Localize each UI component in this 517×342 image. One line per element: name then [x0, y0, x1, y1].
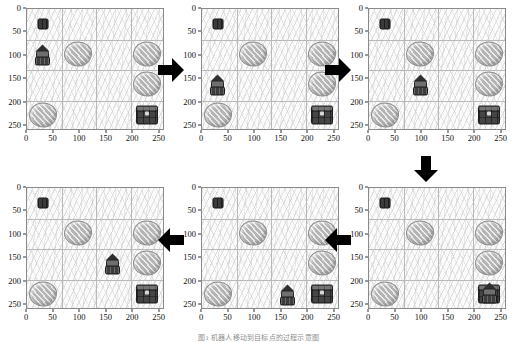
gridline-horizontal	[369, 70, 505, 71]
plot-area	[201, 8, 339, 130]
y-tick-label: 100	[350, 229, 363, 239]
y-tick-label: 150	[8, 252, 21, 262]
robot-agent-icon	[413, 75, 428, 94]
x-tick-label: 200	[301, 312, 314, 322]
x-tick-label: 150	[441, 133, 454, 143]
gridline-vertical	[96, 188, 97, 308]
gridline-vertical	[306, 188, 307, 308]
y-tick-label: 0	[17, 3, 21, 13]
x-tick-label: 50	[390, 133, 399, 143]
plot-area	[368, 8, 506, 130]
chest-goal-icon	[136, 284, 158, 303]
x-tick-label: 200	[468, 133, 481, 143]
rock-obstacle-icon	[371, 281, 399, 306]
panel-step-4: 050100150200250050100150200250	[0, 177, 175, 342]
gridline-vertical	[473, 9, 474, 129]
robot-agent-icon	[280, 284, 295, 303]
plot-area	[368, 187, 506, 309]
y-tick-label: 150	[350, 252, 363, 262]
arrow-panel1-to-panel2	[158, 58, 184, 82]
gridline-horizontal	[369, 219, 505, 220]
x-axis-ticks: 050100150200250	[368, 130, 506, 146]
panel-step-5: 050100150200250050100150200250	[175, 177, 350, 342]
x-tick-label: 0	[24, 312, 28, 322]
gridline-horizontal	[202, 101, 338, 102]
y-axis-ticks: 050100150200250	[0, 8, 26, 130]
y-tick-label: 100	[8, 50, 21, 60]
rock-obstacle-icon	[475, 220, 503, 245]
agent-body	[35, 56, 50, 65]
rock-obstacle-icon	[64, 41, 92, 66]
x-tick-label: 0	[366, 312, 370, 322]
gridline-horizontal	[27, 219, 163, 220]
gridline-vertical	[62, 9, 63, 129]
y-tick-label: 150	[350, 73, 363, 83]
y-tick-label: 200	[8, 276, 21, 286]
x-tick-label: 200	[468, 312, 481, 322]
y-tick-label: 0	[359, 182, 363, 192]
rock-obstacle-icon	[475, 41, 503, 66]
panel-step-1: 050100150200250050100150200250	[0, 0, 175, 160]
y-tick-label: 0	[359, 3, 363, 13]
x-tick-label: 200	[126, 133, 139, 143]
x-axis-ticks: 050100150200250	[368, 309, 506, 325]
y-axis-ticks: 050100150200250	[0, 187, 26, 309]
x-tick-label: 50	[390, 312, 399, 322]
small-chest-icon	[379, 19, 390, 30]
x-tick-label: 100	[73, 312, 86, 322]
gridline-vertical	[62, 188, 63, 308]
x-axis-ticks: 050100150200250	[201, 130, 339, 146]
y-tick-label: 0	[17, 182, 21, 192]
panel-step-3: 050100150200250050100150200250	[342, 0, 517, 160]
arrow-panel5-to-panel6	[158, 228, 184, 252]
gridline-horizontal	[27, 280, 163, 281]
arrow-panel2-to-panel3	[325, 58, 351, 82]
y-tick-label: 0	[192, 182, 196, 192]
arrow-panel3-to-panel4	[414, 156, 438, 182]
rock-obstacle-icon	[475, 72, 503, 97]
y-tick-label: 250	[350, 120, 363, 130]
x-tick-label: 100	[415, 312, 428, 322]
x-tick-label: 150	[274, 312, 287, 322]
gridline-horizontal	[369, 40, 505, 41]
gridline-vertical	[271, 188, 272, 308]
gridline-vertical	[438, 9, 439, 129]
small-chest-icon	[212, 19, 223, 30]
x-tick-label: 0	[199, 312, 203, 322]
gridline-vertical	[404, 188, 405, 308]
gridline-horizontal	[202, 219, 338, 220]
gridline-vertical	[96, 9, 97, 129]
agent-body	[413, 87, 428, 96]
gridline-horizontal	[369, 280, 505, 281]
x-tick-label: 150	[99, 312, 112, 322]
robot-agent-icon	[210, 75, 225, 94]
rock-obstacle-icon	[204, 281, 232, 306]
y-tick-label: 100	[183, 50, 196, 60]
small-chest-icon	[379, 198, 390, 209]
x-tick-label: 100	[248, 133, 261, 143]
gridline-vertical	[237, 188, 238, 308]
x-tick-label: 200	[301, 133, 314, 143]
x-tick-label: 0	[24, 133, 28, 143]
y-tick-label: 200	[350, 276, 363, 286]
plot-area	[201, 187, 339, 309]
y-tick-label: 50	[13, 205, 22, 215]
gridline-horizontal	[369, 101, 505, 102]
chest-goal-icon	[311, 284, 333, 303]
gridline-vertical	[237, 9, 238, 129]
y-tick-label: 200	[8, 97, 21, 107]
figure-caption: 图1 机器人移动到目标点的过程示意图	[0, 332, 517, 342]
rock-obstacle-icon	[371, 102, 399, 127]
y-tick-label: 100	[350, 50, 363, 60]
agent-body	[482, 295, 497, 304]
arrow-panel4-to-panel5	[325, 228, 351, 252]
x-axis-ticks: 050100150200250	[26, 309, 164, 325]
y-tick-label: 100	[183, 229, 196, 239]
robot-agent-icon	[35, 44, 50, 63]
rock-obstacle-icon	[239, 41, 267, 66]
rock-obstacle-icon	[406, 41, 434, 66]
robot-agent-icon	[105, 254, 120, 273]
rock-obstacle-icon	[133, 251, 161, 276]
gridline-vertical	[131, 9, 132, 129]
x-tick-label: 250	[327, 312, 340, 322]
